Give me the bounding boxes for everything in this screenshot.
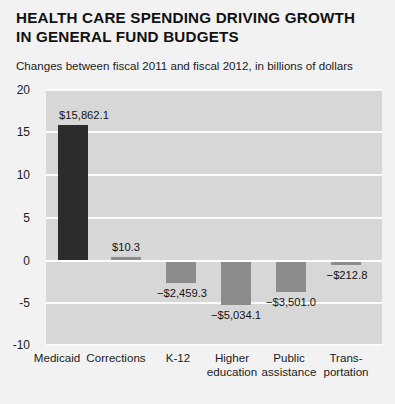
ytick-label-5: 5 [0,211,30,225]
chart-figure: HEALTH CARE SPENDING DRIVING GROWTH IN G… [0,0,395,404]
category-label-medicaid-line1: Medicaid [27,351,87,365]
gridline-minus-5 [46,302,382,304]
bar-k-12[interactable] [166,262,196,283]
ytick-label-minus-10: -10 [0,338,30,352]
data-label-transportation: −$212.8 [314,269,380,281]
bar-higher-education[interactable] [221,262,251,305]
chart-subtitle: Changes between fiscal 2011 and fiscal 2… [16,59,353,72]
ytick-label-0: 0 [0,254,30,268]
ytick-label-20: 20 [0,83,30,97]
chart-title-line-1: HEALTH CARE SPENDING DRIVING GROWTH [16,8,384,27]
category-label-transportation-line1: Trans- [309,351,383,365]
bar-public-assistance[interactable] [276,262,306,292]
gridline-5 [46,217,382,219]
chart-title-line-2: IN GENERAL FUND BUDGETS [16,27,384,46]
category-label-transportation: Trans- portation [309,351,383,379]
gridline-minus-10 [46,344,382,346]
data-label-corrections: $10.3 [97,241,155,253]
gridline-15 [46,131,382,133]
ytick-label-minus-5: -5 [0,296,30,310]
category-label-transportation-line2: portation [309,365,383,379]
bar-corrections[interactable] [111,257,141,260]
category-label-corrections: Corrections [80,351,152,365]
plot-area: 20 15 10 5 0 -5 -10 $15,862.1 $10.3 −$2,… [46,89,382,345]
ytick-label-15: 15 [0,125,30,139]
category-label-medicaid: Medicaid [27,351,87,365]
data-label-higher-education: −$5,034.1 [198,309,274,321]
chart-title: HEALTH CARE SPENDING DRIVING GROWTH IN G… [16,8,384,46]
gridline-20 [46,89,382,91]
bar-medicaid[interactable] [58,125,88,260]
gridline-10 [46,174,382,176]
category-label-corrections-line1: Corrections [80,351,152,365]
data-label-medicaid: $15,862.1 [41,109,127,121]
bar-transportation[interactable] [331,262,361,265]
ytick-label-10: 10 [0,168,30,182]
data-label-k-12: −$2,459.3 [144,287,220,299]
data-label-public-assistance: −$3,501.0 [253,296,329,308]
